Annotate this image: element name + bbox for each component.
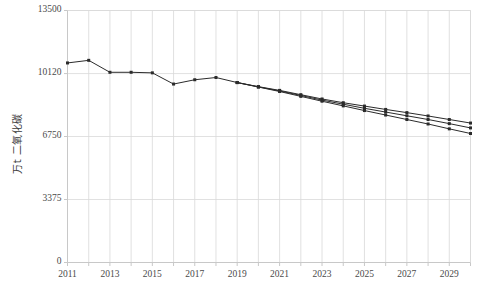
data-point-marker <box>448 122 451 125</box>
series-line <box>237 83 470 128</box>
data-point-marker <box>257 86 260 89</box>
data-point-marker <box>469 132 472 135</box>
data-point-marker <box>130 71 133 74</box>
x-tick-label: 2029 <box>429 269 469 279</box>
x-tick-label: 2021 <box>260 269 300 279</box>
data-point-marker <box>427 118 430 121</box>
x-tick-label: 2023 <box>302 269 342 279</box>
x-tick-label: 2019 <box>217 269 257 279</box>
data-point-marker <box>299 95 302 98</box>
y-tick-label: 13500 <box>38 4 62 14</box>
x-tick-label: 2013 <box>90 269 130 279</box>
axis-ticks <box>64 11 471 267</box>
data-point-marker <box>278 90 281 93</box>
x-tick-label: 2025 <box>344 269 384 279</box>
series-line <box>68 60 471 123</box>
data-point-marker <box>384 114 387 117</box>
chart-canvas <box>0 0 482 286</box>
y-tick-label: 6750 <box>43 130 62 140</box>
x-tick-label: 2011 <box>48 269 88 279</box>
data-point-marker <box>405 118 408 121</box>
data-point-marker <box>172 83 175 86</box>
data-point-marker <box>469 122 472 125</box>
x-tick-label: 2027 <box>387 269 427 279</box>
data-point-marker <box>236 81 239 84</box>
x-tick-label: 2017 <box>175 269 215 279</box>
data-point-marker <box>66 61 69 64</box>
data-point-marker <box>342 104 345 107</box>
data-series-group <box>66 59 472 135</box>
y-tick-label: 3375 <box>43 193 62 203</box>
y-tick-label: 10120 <box>38 67 62 77</box>
grid-lines <box>68 11 471 263</box>
series-line <box>237 83 470 134</box>
data-point-marker <box>363 109 366 112</box>
data-point-marker <box>214 76 217 79</box>
data-point-marker <box>427 114 430 117</box>
data-point-marker <box>469 126 472 129</box>
data-point-marker <box>405 111 408 114</box>
data-point-marker <box>193 78 196 81</box>
data-point-marker <box>151 71 154 74</box>
data-point-marker <box>321 100 324 103</box>
data-point-marker <box>405 114 408 117</box>
co2-emission-line-chart: 万t 二氧化碳 0337567501012013500 201120132015… <box>0 0 482 286</box>
data-point-marker <box>384 108 387 111</box>
x-tick-label: 2015 <box>132 269 172 279</box>
data-point-marker <box>108 71 111 74</box>
data-point-marker <box>448 127 451 130</box>
data-point-marker <box>87 59 90 62</box>
data-point-marker <box>448 118 451 121</box>
data-point-marker <box>384 111 387 114</box>
y-tick-label: 0 <box>57 256 62 266</box>
data-point-marker <box>427 122 430 125</box>
